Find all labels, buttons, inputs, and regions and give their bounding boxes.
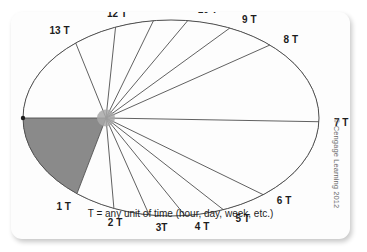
time-wheel-diagram: 0 T1 T2 T3T4 T5 T6 T7 T8 T9 T10 T11 T12 … [11,12,350,239]
figure-root: 0 T1 T2 T3T4 T5 T6 T7 T8 T9 T10 T11 T12 … [0,0,367,252]
ray-label: 9 T [242,14,256,25]
copyright-credit: © Cengage Learning 2012 [332,118,341,228]
ray-label: 4 T [195,221,209,232]
ray-label: 10 T [198,12,218,15]
figure-caption: T = any unit of time (hour, day, week, e… [11,208,350,219]
ray-label: 3T [156,222,168,233]
ray-label: 11 T [161,12,180,14]
page-clipped-header [0,0,367,4]
figure-card: 0 T1 T2 T3T4 T5 T6 T7 T8 T9 T10 T11 T12 … [11,12,350,239]
center-hub [97,110,115,127]
hub-disc [97,110,115,127]
ray-label: 6 T [277,195,291,206]
ray-label: 12 T [107,12,127,19]
ray-label: 8 T [284,34,298,45]
origin-marker-dot [21,116,25,120]
ray-label: 13 T [49,25,69,36]
